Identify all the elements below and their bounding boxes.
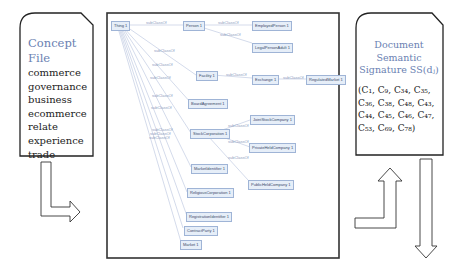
edge-label: subClassOf xyxy=(149,135,170,140)
concept-title-line2: File xyxy=(28,51,92,66)
edge-label: subClassOf xyxy=(151,105,172,110)
node-board-agreement: BoardAgreement 1 xyxy=(188,99,228,109)
node-contract-party: ContractParty 1 xyxy=(184,226,218,236)
right-turn-arrow-icon xyxy=(41,162,80,222)
node-public-held-company: PublicHeldCompany 1 xyxy=(248,180,294,190)
document-signature-concepts: (C₁, C₉, C₃₄, C₃₅, C₃₆, C₃₈, C₄₈, C₄₃, C… xyxy=(358,84,442,134)
concept-term: relate xyxy=(28,120,92,134)
node-person: Person 1 xyxy=(183,21,205,31)
node-registration-identifier: RegistrationIdentifier 1 xyxy=(186,212,232,222)
edge-label: subClassOf xyxy=(226,72,247,77)
edge-label: subClassOf xyxy=(152,62,173,67)
edge-label: subClassOf xyxy=(228,155,249,160)
node-legal-person-adult: LegalPersonAdult 1 xyxy=(252,43,293,53)
concept-title-line1: Concept xyxy=(28,36,92,51)
concept-term: experience xyxy=(28,134,92,148)
node-market: Market 1 xyxy=(180,240,202,250)
node-religious-corporation: ReligiousCorporation 1 xyxy=(187,188,234,198)
down-arrow-icon xyxy=(415,159,437,258)
concept-term: business xyxy=(28,93,92,107)
edge-label: subClassOf xyxy=(283,75,304,80)
document-signature-title: Document Semantic Signature SS(dⱼ) xyxy=(358,39,440,77)
node-thing: Thing 1 xyxy=(111,21,130,31)
doc-title-line2: Semantic xyxy=(358,52,440,65)
concept-term: governance xyxy=(28,80,92,94)
edge-label: subClassOf xyxy=(146,20,167,25)
node-stock-corporation: StockCorporation 1 xyxy=(190,129,230,139)
edge-label: subClassOf xyxy=(154,48,175,53)
node-facility: Facility 1 xyxy=(196,71,218,81)
doc-title-line3: Signature SS(dⱼ) xyxy=(358,64,440,77)
node-exchange: Exchange 1 xyxy=(252,75,279,85)
concept-term: trade xyxy=(28,148,92,162)
edge-label: subClassOf xyxy=(218,20,239,25)
edge-label: subClassOf xyxy=(150,75,171,80)
concept-file: Concept File commerce governance busines… xyxy=(28,36,92,161)
doc-title-line1: Document xyxy=(358,39,440,52)
node-joint-stock-company: JointStockCompany 1 xyxy=(250,115,295,125)
edge-label: subClassOf xyxy=(228,139,249,144)
edge-label: subClassOf xyxy=(228,123,249,128)
node-market-identifier: MarketIdentifier 1 xyxy=(191,164,228,174)
edge-label: subClassOf xyxy=(220,32,241,37)
node-private-held-company: PrivateHeldCompany 1 xyxy=(249,143,296,153)
concept-term: commerce xyxy=(28,66,92,80)
concept-file-title: Concept File xyxy=(28,36,92,66)
up-turn-arrow-icon xyxy=(355,168,402,228)
concept-term: ecommerce xyxy=(28,107,92,121)
node-regulated-market: RegulatedMarket 1 xyxy=(306,75,346,85)
node-employed-person: EmployedPerson 1 xyxy=(252,21,292,31)
edge-label: subClassOf xyxy=(152,93,173,98)
